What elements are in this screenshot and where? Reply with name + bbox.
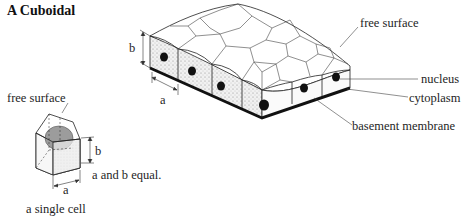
- single-cell-diagram: [36, 114, 80, 175]
- nucleus-icon: [160, 53, 168, 62]
- dimension-a-label: a: [160, 94, 166, 107]
- equality-note: a and b equal.: [92, 169, 161, 182]
- nucleus-label: nucleus: [421, 73, 459, 86]
- basement-membrane-label: basement membrane: [352, 120, 455, 133]
- dimension-b-main: [140, 30, 150, 68]
- single-cell-caption: a single cell: [26, 203, 86, 216]
- cytoplasm-label: cytoplasm: [409, 92, 460, 105]
- single-dimension-a-label: a: [63, 184, 69, 197]
- single-free-surface-label: free surface: [7, 92, 66, 105]
- cuboidal-epithelium-diagram: [0, 0, 464, 223]
- nucleus-icon: [259, 100, 269, 111]
- nucleus-icon: [300, 84, 308, 93]
- nucleus-icon: [188, 67, 196, 76]
- nucleus-icon: [217, 82, 225, 91]
- dimension-b-single: [81, 137, 94, 163]
- dimension-b-label: b: [129, 42, 135, 55]
- nucleus-icon: [332, 73, 340, 82]
- epithelium-block: [150, 4, 350, 118]
- free-surface-label: free surface: [360, 17, 419, 30]
- single-dimension-b-label: b: [95, 145, 101, 158]
